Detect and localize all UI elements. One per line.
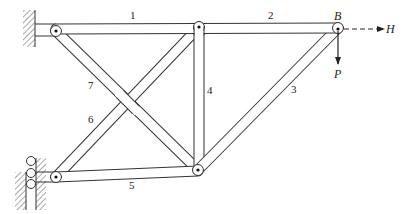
pin-e-icon bbox=[54, 175, 57, 178]
pin-a-icon bbox=[54, 29, 57, 32]
pin-c-icon bbox=[197, 25, 200, 28]
load-label-p: P bbox=[333, 67, 342, 81]
truss-diagram: 1 2 3 4 5 6 7 B H P bbox=[0, 0, 410, 214]
member-label-6: 6 bbox=[88, 113, 94, 125]
member-label-1: 1 bbox=[130, 9, 136, 21]
member-label-4: 4 bbox=[207, 84, 213, 96]
roller-wall-support bbox=[15, 157, 56, 211]
member-label-5: 5 bbox=[129, 179, 135, 191]
pin-d-icon bbox=[196, 168, 199, 171]
load-label-h: H bbox=[385, 22, 396, 36]
member-label-7: 7 bbox=[88, 79, 94, 91]
member-label-3: 3 bbox=[291, 83, 297, 95]
joint-label-b: B bbox=[334, 9, 342, 23]
member-label-2: 2 bbox=[268, 9, 274, 21]
truss-members bbox=[51, 22, 344, 183]
pin-b-icon bbox=[336, 27, 339, 30]
